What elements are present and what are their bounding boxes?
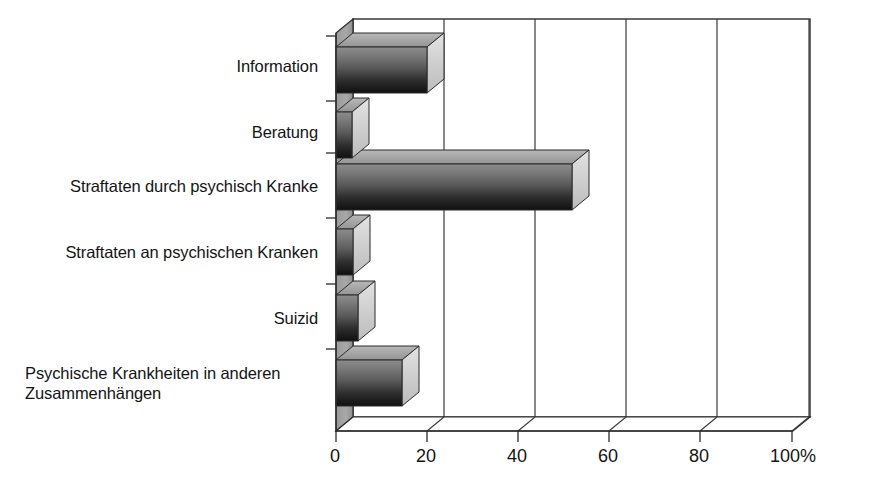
category-axis — [326, 33, 336, 431]
bar-information[interactable] — [336, 33, 444, 93]
category-label-suizid: Suizid — [0, 309, 318, 328]
xtick-label-0: 0 — [330, 446, 340, 467]
category-label-straftaten-durch-psychisch-kranke: Straftaten durch psychisch Kranke — [0, 177, 318, 196]
xtick-label-40: 40 — [507, 446, 527, 467]
category-label-beratung: Beratung — [0, 123, 318, 142]
bar-straftaten-durch-psychisch-kranke[interactable] — [336, 150, 589, 210]
xtick-label-100: 100% — [770, 446, 816, 467]
bar-suizid[interactable] — [336, 281, 375, 341]
value-axis — [336, 431, 793, 442]
category-label-psychische-krankheiten-line2: Zusammenhängen — [25, 384, 320, 403]
category-label-information: Information — [0, 57, 318, 76]
bar-psychische-krankheiten-in-anderen-zusammenhaengen[interactable] — [336, 346, 419, 406]
category-label-psychische-krankheiten-line1: Psychische Krankheiten in anderen — [25, 364, 320, 383]
xtick-label-20: 20 — [416, 446, 436, 467]
xtick-label-80: 80 — [689, 446, 709, 467]
axis-floor — [336, 417, 810, 431]
category-label-straftaten-an-psychischen-kranken: Straftaten an psychischen Kranken — [0, 243, 318, 262]
chart-container: Information Beratung Straftaten durch ps… — [0, 0, 877, 481]
xtick-label-60: 60 — [598, 446, 618, 467]
